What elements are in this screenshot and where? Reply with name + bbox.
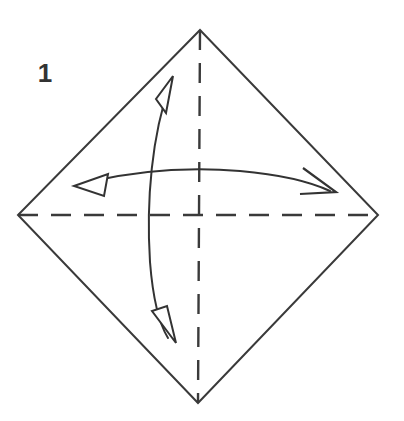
paper-square-outline — [18, 30, 378, 403]
horizontal-arrow-head-left-icon — [74, 174, 108, 196]
step-number-label: 1 — [38, 58, 52, 88]
horizontal-fold-arrow — [74, 168, 336, 196]
horizontal-arrow-shaft — [88, 169, 330, 191]
vertical-arrow-head-bottom-icon — [152, 306, 176, 343]
vertical-fold-arrow — [149, 76, 176, 343]
vertical-arrow-head-top-icon — [156, 76, 173, 113]
horizontal-arrow-head-right-icon — [300, 168, 336, 194]
vertical-arrow-shaft — [149, 84, 170, 338]
origami-step-diagram: Origami fold step diagram 1 — [0, 0, 404, 421]
vertical-crease-line — [198, 30, 200, 403]
origami-diagram-canvas: Origami fold step diagram 1 — [0, 0, 404, 421]
